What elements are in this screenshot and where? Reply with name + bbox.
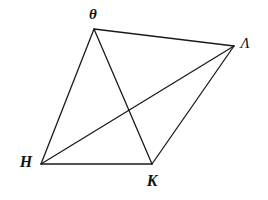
vertex-label-lambda: Λ	[240, 36, 249, 51]
edge-theta-eta	[41, 29, 94, 164]
vertex-label-eta: H	[20, 154, 32, 170]
edge-group	[41, 29, 234, 164]
edge-theta-lambda	[94, 29, 234, 46]
edge-eta-lambda	[41, 46, 234, 164]
edge-theta-kappa	[94, 29, 152, 164]
geometry-figure: θ Λ K H	[0, 0, 268, 200]
edge-kappa-lambda	[152, 46, 234, 164]
vertex-label-theta: θ	[89, 7, 97, 22]
geometry-canvas	[0, 0, 268, 200]
vertex-label-kappa: K	[147, 173, 158, 189]
